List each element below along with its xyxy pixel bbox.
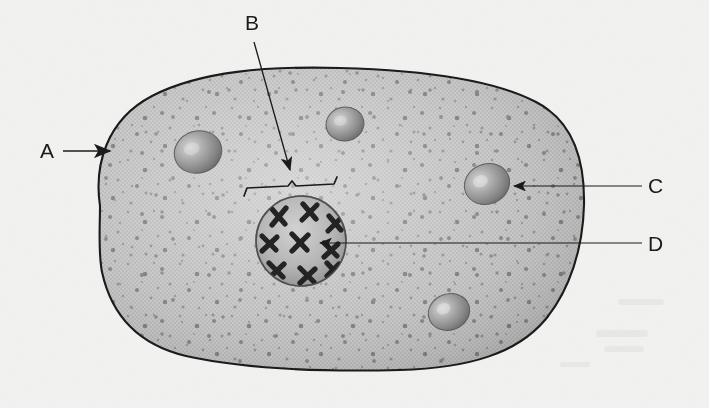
label-b-text: B bbox=[245, 11, 259, 34]
label-d-text: D bbox=[648, 232, 663, 255]
label-c-text: C bbox=[648, 174, 663, 197]
figure-canvas: A B C D bbox=[0, 0, 709, 408]
nucleus bbox=[256, 196, 346, 286]
label-a-text: A bbox=[40, 139, 54, 162]
